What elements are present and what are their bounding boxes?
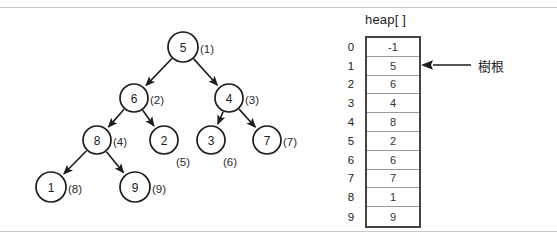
array-index-label: 6	[343, 151, 359, 169]
array-cell-row: 0-1	[367, 38, 419, 57]
array-cell-row: 15	[367, 57, 419, 76]
tree-edge	[239, 109, 255, 127]
tree-node: 7(7)	[253, 126, 297, 154]
node-value: 1	[48, 181, 55, 195]
array-index-label: 2	[343, 76, 359, 94]
array-cell-row: 26	[367, 76, 419, 95]
node-index-label: (1)	[200, 43, 214, 55]
tree-edge	[64, 151, 87, 174]
tree-node: 1(8)	[36, 172, 82, 202]
array-cell-row: 66	[367, 151, 419, 170]
tree-node: 5(1)	[168, 32, 214, 62]
tree-edge	[218, 112, 223, 124]
node-index-label: (3)	[245, 94, 259, 106]
tree-node: 9(9)	[120, 172, 166, 202]
node-value: 8	[94, 134, 101, 148]
node-value: 2	[161, 134, 168, 148]
binary-heap-tree-diagram: 5(1)6(2)4(3)8(4)2(5)3(6)7(7)1(8)9(9)	[0, 0, 340, 249]
node-value: 9	[132, 181, 139, 195]
node-index-label: (8)	[68, 183, 82, 195]
node-index-label: (9)	[152, 183, 166, 195]
node-value: 3	[208, 134, 215, 148]
array-cell-row: 34	[367, 94, 419, 113]
node-index-label: (4)	[113, 136, 127, 148]
array-index-label: 8	[343, 188, 359, 206]
tree-edge	[143, 110, 154, 126]
tree-node: 6(2)	[120, 84, 164, 112]
array-cell-value: 7	[367, 170, 419, 188]
tree-edge	[109, 109, 125, 127]
array-index-label: 7	[343, 170, 359, 188]
tree-nodes: 5(1)6(2)4(3)8(4)2(5)3(6)7(7)1(8)9(9)	[36, 32, 297, 202]
root-pointer-annotation: 樹根	[420, 55, 504, 75]
array-cell-row: 52	[367, 132, 419, 151]
node-value: 5	[180, 41, 187, 55]
root-pointer-label: 樹根	[478, 56, 504, 75]
array-cell-value: 9	[367, 207, 419, 226]
node-index-label: (6)	[223, 156, 237, 168]
array-cell-value: -1	[367, 38, 419, 56]
heap-figure: 5(1)6(2)4(3)8(4)2(5)3(6)7(7)1(8)9(9) hea…	[0, 0, 557, 249]
array-header-label: heap[ ]	[365, 12, 406, 27]
array-index-label: 4	[343, 113, 359, 131]
tree-node: 8(4)	[83, 126, 127, 154]
node-value: 4	[226, 92, 233, 106]
tree-edge	[106, 152, 123, 173]
array-index-label: 9	[343, 207, 359, 226]
array-cell-value: 4	[367, 94, 419, 112]
array-cell-row: 81	[367, 188, 419, 207]
tree-edge	[146, 59, 172, 86]
array-cell-row: 48	[367, 113, 419, 132]
node-index-label: (5)	[176, 156, 190, 168]
node-value: 7	[264, 134, 271, 148]
tree-node: 3(6)	[197, 126, 237, 168]
node-value: 6	[131, 92, 138, 106]
array-cell-value: 8	[367, 113, 419, 131]
node-index-label: (2)	[150, 94, 164, 106]
array-cell-value: 5	[367, 57, 419, 75]
array-cell-row: 99	[367, 207, 419, 226]
node-index-label: (7)	[283, 136, 297, 148]
array-cell-value: 6	[367, 151, 419, 169]
array-index-label: 0	[343, 38, 359, 56]
array-index-label: 3	[343, 94, 359, 112]
array-index-label: 1	[343, 57, 359, 75]
tree-edge	[194, 59, 218, 85]
array-cell-row: 77	[367, 170, 419, 189]
array-cell-value: 1	[367, 188, 419, 206]
array-cell-value: 2	[367, 132, 419, 150]
left-arrow-icon	[420, 58, 472, 72]
tree-node: 2(5)	[150, 126, 190, 168]
tree-node: 4(3)	[215, 84, 259, 112]
array-cell-value: 6	[367, 76, 419, 94]
array-index-label: 5	[343, 132, 359, 150]
heap-array-table: 0-1152634485266778199	[365, 36, 421, 228]
